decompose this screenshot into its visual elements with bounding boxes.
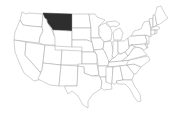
us-map-svg	[0, 0, 190, 113]
state-kansas	[82, 52, 97, 64]
state-colorado	[61, 50, 82, 65]
state-rhode-island	[155, 30, 157, 34]
state-new-mexico	[59, 65, 78, 86]
state-north-dakota	[72, 14, 91, 28]
state-new-york	[131, 21, 151, 37]
state-washington	[20, 12, 43, 27]
state-wyoming	[53, 30, 72, 47]
state-utah	[43, 45, 62, 65]
us-map: United States map	[0, 0, 190, 113]
state-nebraska	[72, 40, 94, 52]
state-maine	[155, 6, 168, 25]
state-florida	[116, 80, 141, 102]
state-connecticut	[151, 30, 155, 35]
